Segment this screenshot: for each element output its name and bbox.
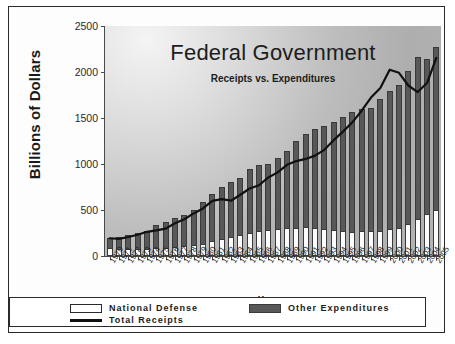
y-tick-label: 2000 (75, 66, 98, 78)
chart-legend: National Defense Total Receipts Other Ex… (9, 297, 426, 327)
total-receipts-line (105, 26, 441, 256)
chart-screenshot: Billions of Dollars Federal Government R… (0, 0, 455, 344)
chart-area: Billions of Dollars Federal Government R… (18, 14, 453, 299)
receipts-polyline (110, 58, 437, 239)
chart-outer-frame: Billions of Dollars Federal Government R… (8, 6, 445, 333)
legend-item-national-defense: National Defense (70, 303, 198, 313)
legend-item-total-receipts: Total Receipts (70, 315, 184, 325)
y-tick-label: 0 (92, 250, 98, 262)
y-tick-mark (101, 256, 105, 257)
black-line-swatch-icon (70, 319, 102, 322)
legend-label: Total Receipts (109, 315, 184, 325)
white-rect-swatch-icon (70, 304, 102, 313)
legend-item-other-expenditures: Other Expenditures (249, 303, 390, 313)
y-tick-label: 1000 (75, 158, 98, 170)
y-axis-title: Billions of Dollars (26, 35, 43, 195)
legend-label: Other Expenditures (288, 303, 390, 313)
legend-label: National Defense (109, 303, 198, 313)
y-tick-label: 1500 (75, 112, 98, 124)
y-tick-label: 500 (80, 204, 98, 216)
plot-area: Federal Government Receipts vs. Expendit… (104, 26, 441, 257)
y-tick-label: 2500 (75, 20, 98, 32)
x-axis-tick-labels: 1970197119721973197419751976197719781979… (104, 260, 441, 294)
dark-rect-swatch-icon (249, 304, 281, 313)
